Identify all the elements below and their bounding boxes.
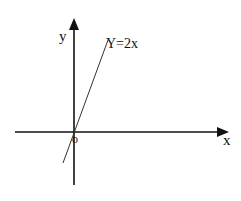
line-equation-label: Y=2x bbox=[106, 37, 138, 51]
y-axis-arrow-icon bbox=[69, 18, 79, 30]
line-y-equals-2x bbox=[63, 40, 108, 163]
coordinate-diagram: y Y=2x x o bbox=[0, 0, 241, 201]
diagram-graphics bbox=[0, 0, 241, 201]
origin-label: o bbox=[72, 133, 78, 145]
y-axis-label: y bbox=[59, 29, 67, 44]
x-axis-label: x bbox=[223, 133, 231, 148]
